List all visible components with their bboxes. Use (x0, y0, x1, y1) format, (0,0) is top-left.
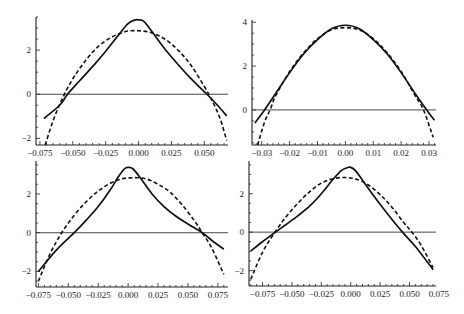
x-tick-label: −0.025 (309, 289, 335, 299)
x-tick-label: 0.000 (341, 289, 362, 299)
x-tick-label: −0.075 (250, 289, 276, 299)
panel-bottom-right: −0.075−0.050−0.0250.0000.0250.0500.075−2… (0, 0, 464, 314)
series-solid-curve (251, 167, 433, 270)
figure: −0.075−0.050−0.0250.0000.0250.050−202 −0… (0, 0, 464, 314)
series-dashed-curve (251, 178, 433, 280)
x-tick-label: 0.075 (429, 289, 450, 299)
x-tick-label: 0.050 (399, 289, 420, 299)
x-tick-label: −0.050 (279, 289, 305, 299)
x-tick-label: 0.025 (370, 289, 391, 299)
y-tick-label: 2 (240, 189, 245, 199)
axes: −0.075−0.050−0.0250.0000.0250.0500.075−2… (234, 161, 449, 299)
y-tick-label: −2 (234, 266, 244, 276)
y-tick-label: 0 (240, 227, 245, 237)
